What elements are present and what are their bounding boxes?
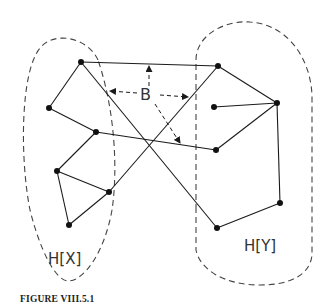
edges-within-y (214, 66, 280, 228)
node (211, 104, 217, 110)
node (93, 129, 99, 135)
node (277, 200, 283, 206)
edges-within-x (49, 62, 109, 225)
figure-caption: FIGURE VIII.5.1 (20, 294, 94, 304)
node (274, 100, 280, 106)
node (46, 105, 52, 111)
node (214, 225, 220, 231)
node (106, 189, 112, 195)
node (213, 147, 219, 153)
node (78, 59, 84, 65)
node (66, 222, 72, 228)
b-arrows (110, 66, 188, 143)
node (215, 63, 221, 69)
b-label: B (140, 85, 151, 104)
hx-label: H[X] (48, 250, 81, 268)
bipartite-cut-diagram: B H[X] H[Y] (0, 0, 326, 308)
node (54, 168, 60, 174)
hy-label: H[Y] (244, 237, 276, 255)
